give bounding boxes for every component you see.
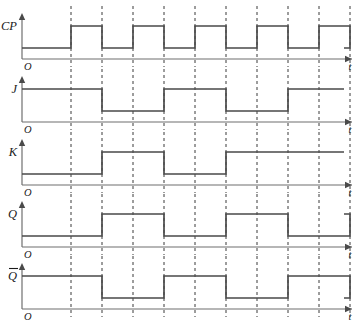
time-axis-label: t (349, 124, 353, 135)
time-axis-label: t (349, 249, 353, 260)
value-axis-arrowhead (19, 201, 25, 208)
origin-label: O (24, 124, 32, 135)
signal-waveform-cp (22, 26, 350, 48)
waveform-panel-j: JOt (11, 69, 352, 135)
time-axis-label: t (349, 187, 353, 198)
signal-label-j: J (11, 82, 18, 96)
signal-label-cp: CP (1, 19, 17, 33)
waveform-panel-qbar: QOt (8, 256, 353, 322)
origin-label: O (24, 311, 32, 322)
timing-diagram-figure: CPOtJOtKOtQOtQOt (0, 0, 360, 332)
value-axis-arrowhead (19, 139, 25, 146)
signal-label-q: Q (8, 207, 17, 221)
signal-waveform-j (22, 89, 344, 111)
waveform-panels: CPOtJOtKOtQOtQOt (1, 6, 353, 322)
waveform-panel-cp: CPOt (1, 6, 353, 72)
timing-diagram-canvas: CPOtJOtKOtQOtQOt (0, 0, 360, 332)
origin-label: O (24, 249, 32, 260)
value-axis-arrowhead (19, 13, 25, 20)
waveform-panel-k: KOt (8, 132, 353, 198)
origin-label: O (24, 61, 32, 72)
signal-label-k: K (8, 145, 18, 159)
signal-label-qbar: Q (8, 269, 17, 283)
signal-waveform-k (22, 152, 344, 174)
time-axis-label: t (349, 311, 353, 322)
waveform-panel-q: QOt (8, 194, 353, 260)
time-axis-label: t (349, 61, 353, 72)
value-axis-arrowhead (19, 263, 25, 270)
origin-label: O (24, 187, 32, 198)
value-axis-arrowhead (19, 76, 25, 83)
